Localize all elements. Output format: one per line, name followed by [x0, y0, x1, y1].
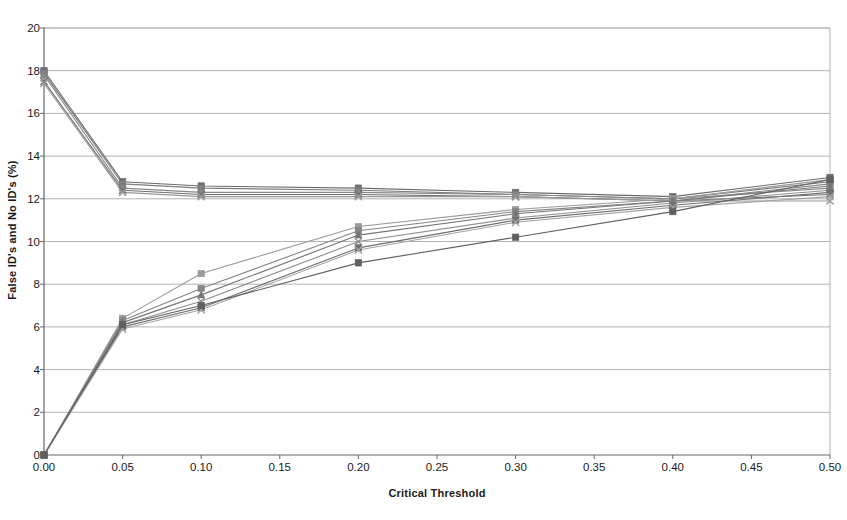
data-point-marker: [198, 302, 204, 308]
data-point-marker: [827, 176, 833, 182]
chart-container: False ID's and No ID's (%) 0246810121416…: [0, 0, 847, 520]
data-point-marker: [670, 208, 676, 214]
x-tick-label: 0.15: [250, 461, 310, 473]
gridlines: [44, 28, 830, 412]
x-tick-label: 0.40: [643, 461, 703, 473]
series-line: [44, 71, 830, 197]
x-tick-label: 0.25: [407, 461, 467, 473]
x-tick-label: 0.45: [721, 461, 781, 473]
x-tick-label: 0.10: [171, 461, 231, 473]
x-tick-label: 0.20: [328, 461, 388, 473]
x-tick-label: 0.50: [800, 461, 847, 473]
series-line: [44, 81, 830, 201]
series-line: [44, 75, 830, 199]
markers-group: [40, 68, 833, 459]
plot-area: [0, 0, 847, 520]
data-point-marker: [198, 270, 204, 276]
series-line: [44, 190, 830, 455]
data-point-marker: [41, 452, 47, 458]
series-line: [44, 186, 830, 455]
x-tick-label: 0.00: [14, 461, 74, 473]
x-tick-label: 0.30: [486, 461, 546, 473]
series-group: [44, 71, 830, 455]
x-axis-title: Critical Threshold: [44, 487, 830, 499]
x-tick-label: 0.05: [93, 461, 153, 473]
data-point-marker: [512, 234, 518, 240]
axes: [40, 28, 830, 459]
series-line: [44, 73, 830, 199]
x-tick-label: 0.35: [564, 461, 624, 473]
data-point-marker: [119, 322, 125, 328]
data-point-marker: [355, 260, 361, 266]
series-line: [44, 197, 830, 455]
series-line: [44, 192, 830, 455]
